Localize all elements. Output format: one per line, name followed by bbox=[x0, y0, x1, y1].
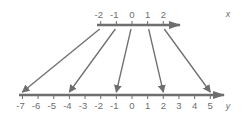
mapping-diagram-svg: -2-1012 x -7-6-5-4-3-2-1012345 y bbox=[0, 0, 245, 118]
y-tick-label: -4 bbox=[63, 100, 71, 111]
y-axis-name: y bbox=[225, 101, 231, 111]
y-tick-label: 1 bbox=[145, 100, 150, 111]
x-axis-labels: -2-1012 bbox=[94, 9, 165, 20]
y-tick-label: 3 bbox=[176, 100, 181, 111]
x-axis-name: x bbox=[225, 9, 231, 19]
x-tick-label: -1 bbox=[110, 9, 118, 20]
y-tick-label: -2 bbox=[94, 100, 102, 111]
y-tick-label: -5 bbox=[48, 100, 56, 111]
mapping-arrows bbox=[22, 29, 210, 92]
y-tick-label: -1 bbox=[110, 100, 118, 111]
x-tick-label: 0 bbox=[129, 9, 134, 20]
y-tick-label: 5 bbox=[208, 100, 213, 111]
mapping-arrow bbox=[164, 29, 210, 92]
y-tick-label: -3 bbox=[79, 100, 87, 111]
mapping-arrow bbox=[69, 29, 115, 92]
y-axis: -7-6-5-4-3-2-1012345 y bbox=[16, 95, 231, 111]
y-tick-label: 4 bbox=[192, 100, 197, 111]
y-tick-label: 2 bbox=[161, 100, 166, 111]
x-tick-label: -2 bbox=[94, 9, 102, 20]
y-tick-label: 0 bbox=[129, 100, 134, 111]
y-tick-label: -7 bbox=[16, 100, 24, 111]
x-tick-label: 2 bbox=[161, 9, 166, 20]
mapping-diagram: -2-1012 x -7-6-5-4-3-2-1012345 y bbox=[0, 0, 245, 118]
mapping-arrow bbox=[149, 29, 164, 92]
x-tick-label: 1 bbox=[145, 9, 150, 20]
y-axis-labels: -7-6-5-4-3-2-1012345 bbox=[16, 100, 213, 111]
y-tick-label: -6 bbox=[32, 100, 40, 111]
x-axis: -2-1012 x bbox=[94, 9, 230, 25]
mapping-arrow bbox=[116, 29, 131, 92]
mapping-arrow bbox=[22, 29, 99, 92]
